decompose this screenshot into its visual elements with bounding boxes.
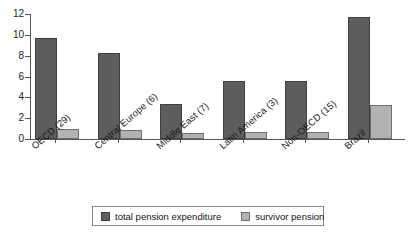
y-tick-label: 0 — [0, 134, 24, 144]
legend-item-total-pension-expenditure: total pension expenditure — [101, 211, 221, 222]
x-tick-mark — [180, 139, 181, 143]
y-tick-label: 10 — [0, 30, 24, 40]
y-tick-mark — [25, 139, 30, 140]
bar-survivor-pension — [370, 105, 392, 139]
x-tick-mark — [305, 139, 306, 143]
y-tick-label: 12 — [0, 9, 24, 19]
legend-swatch-icon-survivor — [241, 212, 250, 221]
x-tick-mark — [118, 139, 119, 143]
legend-label-survivor: survivor pension — [255, 211, 324, 222]
y-tick-label: 2 — [0, 113, 24, 123]
x-tick-mark — [243, 139, 244, 143]
y-tick-label: 8 — [0, 51, 24, 61]
bar-chart: 024681012 OECD (29)Central Europe (6)Mid… — [0, 0, 413, 234]
bar-total-pension-expenditure — [348, 17, 370, 139]
bar-survivor-pension — [307, 132, 329, 139]
legend-swatch-icon-total — [101, 212, 110, 221]
chart-legend: total pension expenditure survivor pensi… — [92, 206, 324, 226]
bar-survivor-pension — [182, 133, 204, 139]
bar-survivor-pension — [120, 130, 142, 139]
bar-group — [343, 14, 406, 139]
legend-label-total: total pension expenditure — [115, 211, 221, 222]
bar-survivor-pension — [245, 132, 267, 139]
x-tick-mark — [55, 139, 56, 143]
plot-area — [30, 14, 405, 139]
y-tick-label: 4 — [0, 92, 24, 102]
legend-item-survivor-pension: survivor pension — [241, 211, 324, 222]
x-tick-mark — [368, 139, 369, 143]
y-tick-label: 6 — [0, 72, 24, 82]
